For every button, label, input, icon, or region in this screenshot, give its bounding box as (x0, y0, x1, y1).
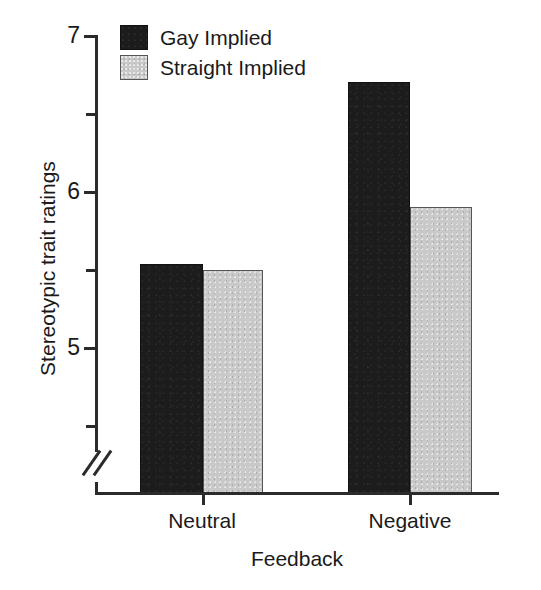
legend-label-straight-implied: Straight Implied (160, 57, 306, 78)
bar-neutral-straight-implied (203, 270, 263, 494)
legend-item-straight-implied: Straight Implied (120, 52, 306, 82)
y-tick-label-7: 7 (52, 24, 80, 47)
y-tick-7 (84, 35, 96, 38)
legend-swatch-light-icon (120, 55, 148, 80)
bar-negative-straight-implied (410, 207, 472, 494)
bar-chart-figure: Gay Implied Straight Implied 7 6 5 Neutr… (0, 0, 541, 590)
x-tick-label-neutral: Neutral (122, 508, 282, 534)
x-axis-title: Feedback (95, 548, 499, 569)
chart-legend: Gay Implied Straight Implied (120, 22, 306, 82)
y-tick-6 (84, 191, 96, 194)
legend-item-gay-implied: Gay Implied (120, 22, 306, 52)
y-axis-title: Stereotypic trait ratings (37, 119, 58, 419)
y-tick-minor-5-5 (86, 269, 96, 272)
x-axis-line (95, 492, 499, 495)
x-tick-negative (409, 494, 412, 505)
axis-break-icon (80, 448, 114, 486)
x-tick-label-negative: Negative (330, 508, 490, 534)
y-tick-minor-4-5 (86, 425, 96, 428)
bar-neutral-gay-implied (140, 264, 203, 494)
bar-negative-gay-implied (348, 82, 410, 494)
legend-swatch-dark-icon (120, 25, 148, 50)
y-tick-minor-6-5 (86, 113, 96, 116)
x-tick-neutral (202, 494, 205, 505)
legend-label-gay-implied: Gay Implied (160, 27, 272, 48)
y-tick-5 (84, 347, 96, 350)
